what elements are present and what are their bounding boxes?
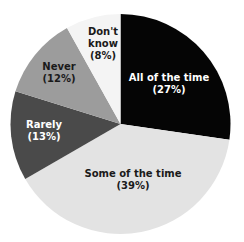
slice-label-name: Some of the time bbox=[84, 168, 181, 180]
slice-label-name: All of the time bbox=[129, 72, 209, 84]
slice-label-value: (39%) bbox=[84, 180, 181, 192]
slice-label: Never(12%) bbox=[42, 61, 75, 85]
slice-label-value: (8%) bbox=[88, 50, 118, 62]
slice-label: Don'tknow(8%) bbox=[88, 26, 118, 62]
slice-label-name: know bbox=[88, 38, 118, 50]
slice-label-value: (27%) bbox=[129, 84, 209, 96]
slice-label-name: Don't bbox=[88, 26, 118, 38]
slice-label-value: (12%) bbox=[42, 73, 75, 85]
slice-label-value: (13%) bbox=[26, 131, 62, 143]
slice-label: Rarely(13%) bbox=[26, 119, 62, 143]
slice-label-name: Rarely bbox=[26, 119, 62, 131]
slice-label-name: Never bbox=[42, 61, 75, 73]
slice-label: Some of the time(39%) bbox=[84, 168, 181, 192]
slice-label: All of the time(27%) bbox=[129, 72, 209, 96]
